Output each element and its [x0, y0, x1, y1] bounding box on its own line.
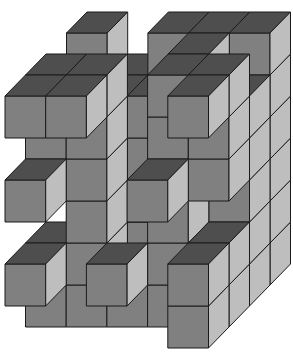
cube-front-face [66, 159, 107, 201]
cube-front-face [66, 201, 107, 243]
cube-structure-diagram: Stacked cube structure [0, 0, 293, 355]
cube-front-face [168, 306, 209, 348]
cube-front-face [168, 264, 209, 306]
cube [5, 159, 66, 222]
cube-front-face [5, 264, 46, 306]
cube-structure-svg [0, 0, 293, 355]
cube-front-face [46, 96, 87, 138]
cube-front-face [188, 159, 229, 201]
cube-front-face [5, 180, 46, 222]
cube-front-face [86, 264, 127, 306]
cube-front-face [5, 96, 46, 138]
cube-front-face [168, 96, 209, 138]
cube-front-face [127, 180, 168, 222]
